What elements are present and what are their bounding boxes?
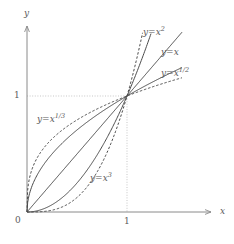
curve-label-x-linear: y=x — [161, 46, 179, 57]
tick-label-origin: 0 — [15, 216, 21, 225]
power-functions-chart: y x 0 1 1 y=x2 y=x y=x1/2 y=x1/3 y=x3 — [0, 0, 234, 244]
curve-label-x-squared: y=x2 — [143, 26, 165, 37]
curve-x-sqrt — [27, 68, 182, 212]
x-axis-name: x — [220, 207, 225, 216]
curve-label-x-sqrt: y=x1/2 — [161, 67, 189, 78]
tick-label-y-1: 1 — [14, 91, 20, 100]
tick-label-x-1: 1 — [124, 217, 130, 226]
curve-label-x-cubed: y=x3 — [90, 172, 112, 183]
curve-x-cuberoot — [27, 78, 182, 212]
curve-label-x-cuberoot: y=x1/3 — [37, 113, 65, 124]
y-axis-name: y — [24, 9, 29, 18]
chart-canvas — [0, 0, 234, 244]
